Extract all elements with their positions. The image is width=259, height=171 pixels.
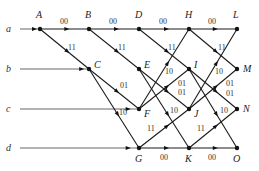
edge-label: 10 bbox=[170, 106, 178, 115]
node-dot bbox=[137, 146, 141, 150]
edge-A-C bbox=[40, 29, 89, 69]
edge-H-L bbox=[189, 27, 237, 31]
edge-C-G bbox=[89, 69, 139, 148]
node-dot bbox=[38, 27, 42, 31]
arrowhead-icon bbox=[213, 111, 217, 116]
edge-label: 11 bbox=[147, 124, 155, 133]
arrowhead-icon bbox=[64, 27, 69, 31]
edge-label: 00 bbox=[208, 153, 216, 162]
node-dot bbox=[187, 107, 191, 111]
arrowhead-icon bbox=[214, 61, 218, 66]
edge-label: 10 bbox=[220, 106, 228, 115]
input-label: c bbox=[6, 103, 11, 114]
node-label: F bbox=[143, 108, 151, 119]
node-B: B bbox=[85, 9, 91, 31]
node-F: F bbox=[137, 107, 151, 119]
node-label: O bbox=[233, 153, 240, 164]
arrowhead-icon bbox=[165, 111, 169, 116]
edge-B-D bbox=[89, 27, 139, 31]
node-dot bbox=[137, 27, 141, 31]
edge-label: 01 bbox=[226, 79, 234, 88]
input-label: b bbox=[6, 63, 11, 74]
edge-label: 10 bbox=[215, 67, 223, 76]
input-b: b bbox=[6, 63, 88, 74]
arrowhead-icon bbox=[164, 146, 169, 150]
node-label: G bbox=[135, 153, 142, 164]
arrowhead-icon bbox=[165, 61, 169, 66]
node-dot bbox=[235, 67, 239, 71]
node-N: N bbox=[235, 103, 251, 114]
node-label: L bbox=[232, 9, 239, 20]
node-label: J bbox=[194, 108, 199, 119]
node-H: H bbox=[184, 9, 193, 31]
input-label: d bbox=[6, 142, 12, 153]
edge-label: 00 bbox=[160, 153, 168, 162]
input-a: a bbox=[6, 23, 39, 34]
node-dot bbox=[137, 67, 141, 71]
edge-label: 11 bbox=[197, 124, 205, 133]
edge-label: 11 bbox=[118, 43, 126, 52]
node-label: H bbox=[184, 9, 193, 20]
edge-label: 10 bbox=[165, 67, 173, 76]
edge-line bbox=[40, 29, 89, 69]
edge-label: 00 bbox=[208, 17, 216, 26]
node-dot bbox=[187, 67, 191, 71]
node-dot bbox=[87, 67, 91, 71]
arrowhead-icon bbox=[32, 27, 37, 31]
node-label: I bbox=[193, 59, 198, 70]
node-E: E bbox=[137, 59, 150, 71]
edge-G-K bbox=[139, 146, 189, 150]
butterfly-network-diagram: abcd ABCDEFGHIJKLMNO 0011001101100011011… bbox=[0, 0, 259, 171]
arrowhead-icon bbox=[213, 27, 218, 31]
edge-label: 00 bbox=[60, 17, 68, 26]
node-dot bbox=[187, 146, 191, 150]
node-label: E bbox=[143, 59, 150, 70]
node-A: A bbox=[35, 9, 43, 31]
node-dot bbox=[137, 107, 141, 111]
edge-label: 11 bbox=[68, 43, 76, 52]
node-label: B bbox=[85, 9, 91, 20]
arrowhead-icon bbox=[79, 67, 84, 71]
arrowhead-icon bbox=[164, 27, 169, 31]
edge-label: 01 bbox=[178, 79, 186, 88]
arrowhead-icon bbox=[114, 27, 119, 31]
node-I: I bbox=[187, 59, 198, 71]
node-dot bbox=[235, 146, 239, 150]
node-label: K bbox=[184, 153, 193, 164]
edge-label: 11 bbox=[218, 43, 226, 52]
edge-label: 01 bbox=[120, 81, 128, 90]
node-label: D bbox=[134, 9, 143, 20]
node-M: M bbox=[235, 63, 252, 74]
node-label: N bbox=[242, 103, 251, 114]
node-L: L bbox=[232, 9, 239, 31]
edge-A-B bbox=[40, 27, 89, 31]
node-D: D bbox=[134, 9, 143, 31]
edge-line bbox=[89, 69, 139, 148]
node-label: M bbox=[242, 63, 252, 74]
edge-label: 10 bbox=[119, 108, 127, 117]
node-dot bbox=[87, 27, 91, 31]
edge-C-F bbox=[89, 69, 139, 109]
edge-D-H bbox=[139, 27, 189, 31]
labels: 0011001101100011011010011100001101101001… bbox=[60, 17, 234, 162]
node-label: A bbox=[35, 9, 43, 20]
edge-label: 01 bbox=[178, 88, 186, 97]
input-d: d bbox=[6, 142, 138, 153]
node-J: J bbox=[187, 107, 199, 119]
node-C: C bbox=[87, 59, 101, 71]
arrowhead-icon bbox=[213, 146, 218, 150]
edge-K-O bbox=[189, 146, 237, 150]
node-dot bbox=[235, 27, 239, 31]
edge-line bbox=[89, 69, 139, 109]
node-label: C bbox=[94, 59, 101, 70]
edge-label: 00 bbox=[109, 17, 117, 26]
arrowhead-icon bbox=[126, 146, 131, 150]
input-label: a bbox=[6, 23, 11, 34]
edge-label: 11 bbox=[168, 43, 176, 52]
node-dot bbox=[235, 107, 239, 111]
edge-label: 00 bbox=[159, 17, 167, 26]
node-dot bbox=[187, 27, 191, 31]
edge-label: 01 bbox=[226, 89, 234, 98]
